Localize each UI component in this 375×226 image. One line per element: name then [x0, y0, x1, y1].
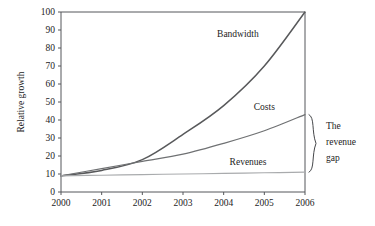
series-label-costs: Costs	[254, 102, 275, 112]
curly-brace-icon	[309, 115, 316, 173]
series-inline-labels: BandwidthCostsRevenues	[217, 29, 275, 167]
y-tick-label: 70	[46, 61, 56, 71]
x-tick-label: 2003	[174, 198, 193, 208]
y-tick-label: 0	[50, 187, 55, 197]
x-tick-label: 2000	[52, 198, 71, 208]
series-label-bandwidth: Bandwidth	[217, 29, 259, 39]
y-axis-title: Relative growth	[16, 71, 26, 132]
y-tick-label: 10	[46, 169, 56, 179]
y-tick-label: 80	[46, 43, 56, 53]
revenue-gap-label-line-2: revenue	[326, 137, 356, 147]
revenue-gap-annotation: The revenue gap	[309, 115, 356, 173]
y-tick-label: 90	[46, 25, 56, 35]
series-curve-revenues	[61, 172, 305, 176]
series-curve-bandwidth	[61, 12, 305, 176]
revenue-gap-label-line-3: gap	[326, 153, 340, 163]
revenue-gap-label-line-1: The	[326, 121, 341, 131]
y-tick-label: 20	[46, 151, 56, 161]
x-axis-ticks: 2000200120022003200420052006	[52, 192, 315, 208]
y-tick-label: 40	[46, 115, 56, 125]
y-tick-label: 100	[41, 7, 56, 17]
x-tick-label: 2004	[214, 198, 233, 208]
series-label-revenues: Revenues	[230, 157, 267, 167]
x-tick-label: 2002	[133, 198, 152, 208]
x-tick-label: 2001	[92, 198, 111, 208]
x-tick-label: 2005	[255, 198, 274, 208]
chart-container: 0102030405060708090100 20002001200220032…	[0, 0, 375, 226]
series-curve-costs	[61, 115, 305, 176]
y-tick-label: 50	[46, 97, 56, 107]
y-tick-label: 60	[46, 79, 56, 89]
y-axis-ticks: 0102030405060708090100	[41, 7, 61, 197]
x-tick-label: 2006	[296, 198, 315, 208]
y-tick-label: 30	[46, 133, 56, 143]
series-curves	[61, 12, 305, 176]
relative-growth-line-chart: 0102030405060708090100 20002001200220032…	[0, 0, 375, 226]
